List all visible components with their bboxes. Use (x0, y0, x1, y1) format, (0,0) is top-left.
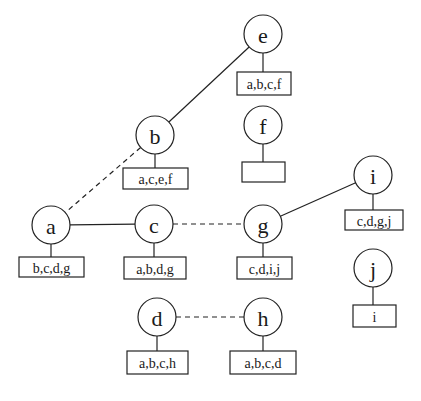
node-label: h (258, 306, 269, 331)
neighbor-box-f (242, 162, 285, 182)
neighbor-list-label: a,b,c,h (139, 356, 176, 371)
neighbor-box-j: i (353, 305, 396, 327)
node-h: h (244, 298, 282, 336)
edge-a-c (70, 224, 135, 225)
neighbor-list-label: a,b,d,g (136, 262, 174, 277)
node-label: i (370, 164, 376, 189)
node-j: j (354, 249, 392, 287)
neighbor-list-label: c,d,g,j (357, 214, 392, 229)
neighbor-box-a: b,c,d,g (19, 257, 84, 277)
neighbor-list-label: a,c,e,f (139, 172, 173, 187)
neighbor-list-label: a,b,c,f (247, 77, 282, 92)
neighbor-box-i: c,d,g,j (345, 210, 403, 230)
neighbor-list-label: i (373, 310, 377, 325)
stems-layer (51, 53, 373, 351)
node-label: g (258, 213, 269, 238)
node-d: d (138, 298, 176, 336)
node-label: f (259, 114, 267, 139)
node-e: e (244, 15, 282, 53)
node-label: c (149, 213, 159, 238)
node-f: f (244, 106, 282, 144)
edges-layer (65, 47, 355, 317)
neighbor-box-d: a,b,c,h (127, 351, 188, 374)
neighbor-list-label: b,c,d,g (33, 261, 71, 276)
neighbor-box-g: c,d,i,j (237, 257, 292, 279)
node-label: e (258, 23, 268, 48)
node-g: g (244, 205, 282, 243)
node-label: b (150, 124, 161, 149)
neighbor-list-label: a,b,c,d (245, 356, 282, 371)
boxes-layer: a,b,c,fa,c,e,fc,d,g,jb,c,d,ga,b,d,gc,d,i… (19, 72, 403, 374)
neighbor-box-h: a,b,c,d (230, 351, 296, 374)
edge-g-i (280, 183, 355, 217)
graph-diagram: ebfiacgjdh a,b,c,fa,c,e,fc,d,g,jb,c,d,ga… (0, 0, 421, 401)
graph-svg: ebfiacgjdh a,b,c,fa,c,e,fc,d,g,jb,c,d,ga… (0, 0, 421, 401)
node-c: c (135, 205, 173, 243)
neighbor-box-rect (242, 162, 285, 182)
node-i: i (354, 156, 392, 194)
neighbor-box-e: a,b,c,f (237, 72, 291, 95)
node-label: a (46, 214, 56, 239)
node-label: j (369, 257, 376, 282)
nodes-layer: ebfiacgjdh (32, 15, 392, 336)
node-label: d (152, 306, 163, 331)
neighbor-list-label: c,d,i,j (249, 262, 281, 277)
neighbor-box-c: a,b,d,g (124, 257, 186, 279)
node-b: b (136, 116, 174, 154)
neighbor-box-b: a,c,e,f (123, 168, 188, 189)
node-a: a (32, 206, 70, 244)
